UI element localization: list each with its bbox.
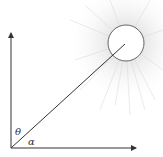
diagram-canvas: θ α [0,0,163,157]
alpha-label: α [28,136,35,147]
sun-glow [66,0,163,115]
sun-icon [108,25,144,61]
theta-label: θ [15,126,21,137]
